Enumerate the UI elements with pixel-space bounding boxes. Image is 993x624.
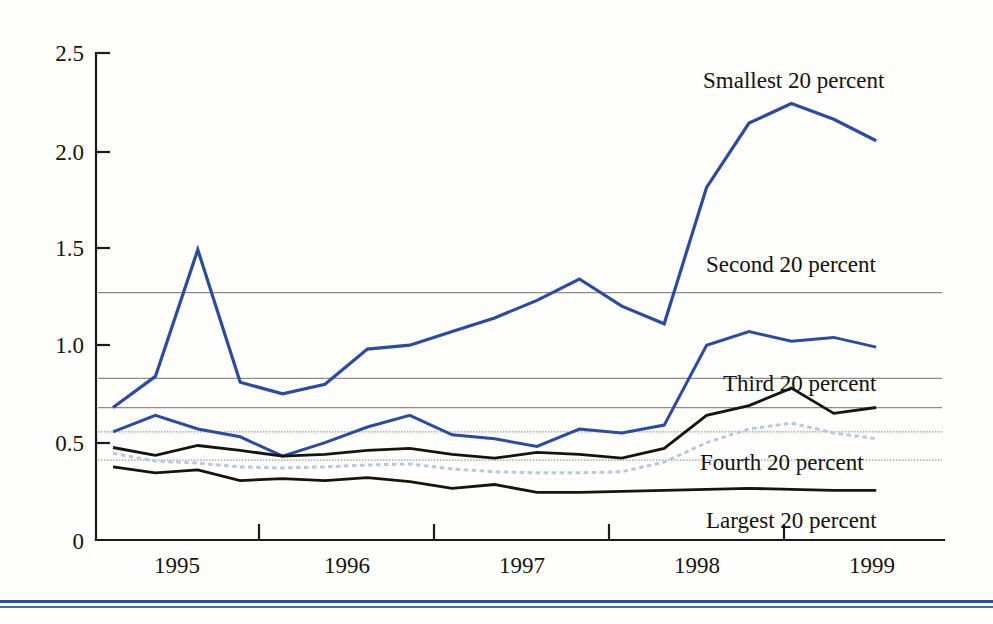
x-axis-label-1999: 1999 <box>849 553 895 578</box>
x-axis-label-1995: 1995 <box>154 553 200 578</box>
series-group <box>113 104 876 493</box>
y-axis-labels: 2.5 2.0 1.5 1.0 0.5 0 <box>55 41 84 554</box>
series-label-second: Second 20 percent <box>706 252 876 277</box>
series-label-smallest: Smallest 20 percent <box>703 68 885 93</box>
x-axis-labels: 1995 1996 1997 1998 1999 <box>154 553 895 578</box>
y-axis-label-1.0: 1.0 <box>55 333 84 358</box>
series-line-third-20-percent <box>113 388 876 458</box>
series-label-third: Third 20 percent <box>723 371 877 396</box>
footer-rule-primary <box>0 600 993 603</box>
series-annotations: Smallest 20 percent Second 20 percent Th… <box>700 68 885 533</box>
x-axis-label-1998: 1998 <box>674 553 720 578</box>
x-axis-label-1996: 1996 <box>324 553 370 578</box>
series-label-fourth: Fourth 20 percent <box>700 450 864 475</box>
series-label-largest: Largest 20 percent <box>706 508 877 533</box>
y-axis-label-2.0: 2.0 <box>55 140 84 165</box>
line-chart: 2.5 2.0 1.5 1.0 0.5 0 1995 1996 1997 199… <box>0 0 993 624</box>
chart-page: 2.5 2.0 1.5 1.0 0.5 0 1995 1996 1997 199… <box>0 0 993 624</box>
x-axis-label-1997: 1997 <box>499 553 545 578</box>
y-axis-label-0: 0 <box>73 529 85 554</box>
y-axis-label-1.5: 1.5 <box>55 236 84 261</box>
footer-rule-secondary <box>0 606 993 608</box>
y-axis-label-0.5: 0.5 <box>55 431 84 456</box>
y-axis-label-2.5: 2.5 <box>55 41 84 66</box>
